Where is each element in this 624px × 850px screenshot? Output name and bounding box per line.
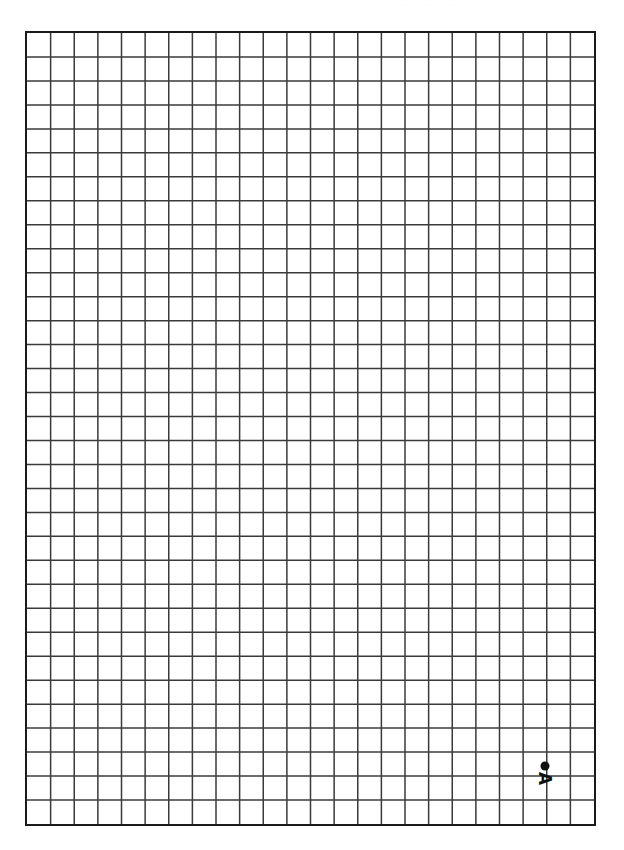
plotted-point-a-marker[interactable] [541,762,550,771]
grid-vertical-lines [51,33,571,824]
plotted-point-a-label: A [536,772,553,785]
graph-paper-grid [25,31,596,826]
scan-header-artifact: · ·· · ··· · ·· · [395,1,595,10]
grid-lines [27,33,594,824]
